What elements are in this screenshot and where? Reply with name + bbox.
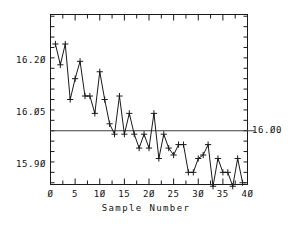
y-axis-tick-label: 16.2Ø [2, 55, 46, 65]
data-point-marker [102, 96, 108, 102]
data-point-marker [121, 131, 127, 137]
data-point-marker [180, 142, 186, 148]
data-point-marker [131, 131, 137, 137]
data-point-marker [52, 41, 58, 47]
data-point-marker [195, 155, 201, 161]
series-polyline [55, 44, 242, 186]
data-point-marker [190, 169, 196, 175]
y-axis-tick-label: 16.Ø5 [2, 107, 46, 117]
data-point-marker [151, 110, 157, 116]
data-point-marker [107, 121, 113, 127]
chart-figure: 16.2Ø16.Ø515.9Ø Ø51Ø152Ø253Ø354Ø 16.Ø0 S… [0, 0, 292, 227]
data-point-marker [57, 62, 63, 68]
x-axis-title: Sample Number [0, 203, 292, 213]
x-axis-tick-label: 4Ø [233, 189, 263, 199]
data-point-marker [215, 155, 221, 161]
data-point-marker [67, 96, 73, 102]
data-point-marker [156, 155, 162, 161]
data-point-marker [92, 110, 98, 116]
reference-line-label: 16.Ø0 [252, 125, 282, 135]
data-point-marker [97, 69, 103, 75]
data-point-marker [126, 110, 132, 116]
data-point-marker [200, 152, 206, 158]
data-point-marker [87, 93, 93, 99]
data-point-marker [235, 155, 241, 161]
data-point-marker [77, 58, 83, 64]
data-point-marker [116, 93, 122, 99]
y-axis-tick-label: 15.9Ø [2, 159, 46, 169]
data-point-marker [141, 131, 147, 137]
data-series-line [55, 44, 242, 186]
data-point-marker [225, 169, 231, 175]
data-point-marker [72, 76, 78, 82]
data-point-marker [146, 145, 152, 151]
data-point-marker [161, 131, 167, 137]
data-point-marker [171, 152, 177, 158]
data-point-marker [205, 142, 211, 148]
data-point-marker [62, 41, 68, 47]
data-point-marker [166, 145, 172, 151]
data-point-marker [111, 131, 117, 137]
data-point-marker [136, 145, 142, 151]
